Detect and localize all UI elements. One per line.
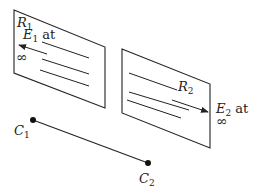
connecting-line xyxy=(33,120,148,163)
region-r1: R1 E1at ∞ xyxy=(14,10,105,108)
region-r2-field-line xyxy=(127,100,181,118)
point-c2-dot xyxy=(145,160,151,166)
region-r1-field-line xyxy=(40,70,89,86)
region-r2-parallelogram xyxy=(122,49,210,148)
diagram-canvas: R1 E1at ∞ R2 E2at ∞ C1 C2 xyxy=(0,0,258,193)
region-r2-label: R2 xyxy=(177,79,194,96)
region-r2-field-line xyxy=(129,92,189,110)
point-c2-label: C2 xyxy=(139,171,155,188)
point-c1-dot xyxy=(30,117,36,123)
region-r2: R2 E2at ∞ xyxy=(122,49,249,148)
region-r1-infinity: ∞ xyxy=(16,49,28,65)
region-r1-field-label: E1at xyxy=(22,27,56,44)
region-r2-field-line xyxy=(129,73,177,90)
segment-c1-c2: C1 C2 xyxy=(14,117,155,188)
region-r1-field-line xyxy=(42,59,89,74)
region-r1-field-line xyxy=(42,42,89,58)
point-c1-label: C1 xyxy=(14,123,30,140)
region-r2-infinity: ∞ xyxy=(216,113,228,129)
